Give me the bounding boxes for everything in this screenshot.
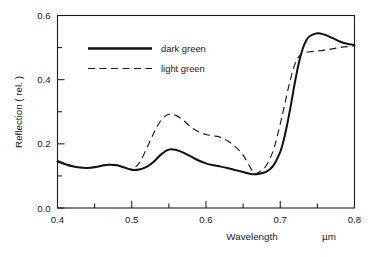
x-axis-unit-label: µm bbox=[322, 231, 336, 242]
y-axis-title: Reflection ( rel. ) bbox=[13, 76, 24, 148]
x-tick-label: 0.7 bbox=[274, 214, 287, 225]
legend-label-dark-green: dark green bbox=[161, 43, 206, 54]
y-tick-label: 0.0 bbox=[37, 203, 50, 214]
y-tick-label: 0.4 bbox=[37, 74, 51, 85]
x-tick-label: 0.5 bbox=[125, 214, 138, 225]
x-axis-title: Wavelength bbox=[226, 231, 277, 242]
y-tick-label: 0.2 bbox=[37, 138, 50, 149]
x-tick-label: 0.6 bbox=[199, 214, 212, 225]
x-tick-label: 0.4 bbox=[51, 214, 65, 225]
chart-figure: 0.00.20.40.6 0.40.50.60.70.8 Reflection … bbox=[0, 0, 372, 257]
legend-label-light-green: light green bbox=[161, 63, 205, 74]
y-tick-label: 0.6 bbox=[37, 10, 50, 21]
x-tick-label: 0.8 bbox=[348, 214, 361, 225]
reflection-spectra-chart: 0.00.20.40.6 0.40.50.60.70.8 Reflection … bbox=[0, 0, 372, 257]
